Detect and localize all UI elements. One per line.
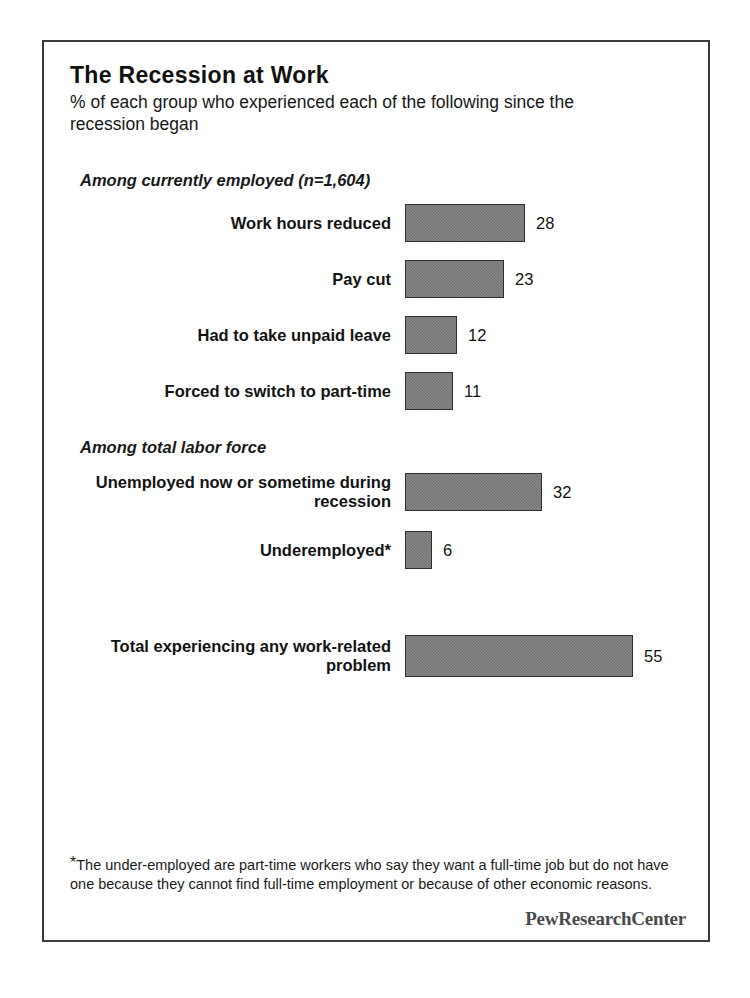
bar-wrap-pay-cut: 23 (405, 260, 686, 298)
bar-label-part-time: Forced to switch to part-time (70, 382, 405, 401)
bar-value-underemployed: 6 (443, 541, 452, 560)
bar-row-work-hours-reduced: Work hours reduced 28 (70, 204, 686, 242)
bar-wrap-part-time: 11 (405, 372, 686, 410)
bar-unpaid-leave (405, 316, 457, 354)
bar-total (405, 635, 633, 677)
bar-unemployed (405, 473, 542, 511)
section-header-total-labor-force: Among total labor force (80, 438, 686, 457)
pew-research-center-logo: PewResearchCenter (525, 908, 686, 930)
bar-pay-cut (405, 260, 504, 298)
bar-wrap-total: 55 (405, 635, 686, 677)
bar-value-pay-cut: 23 (515, 270, 533, 289)
bar-row-unemployed: Unemployed now or sometime during recess… (70, 473, 686, 511)
bar-wrap-work-hours-reduced: 28 (405, 204, 686, 242)
section-header-currently-employed: Among currently employed (n=1,604) (80, 171, 686, 190)
bar-label-pay-cut: Pay cut (70, 270, 405, 289)
bar-row-unpaid-leave: Had to take unpaid leave 12 (70, 316, 686, 354)
bar-part-time (405, 372, 453, 410)
bar-value-total: 55 (644, 647, 662, 666)
chart-subtitle: % of each group who experienced each of … (70, 92, 630, 135)
bar-label-unpaid-leave: Had to take unpaid leave (70, 326, 405, 345)
chart-rows: Among currently employed (n=1,604) Work … (70, 171, 686, 677)
footnote: *The under-employed are part-time worker… (70, 853, 686, 894)
page-title: The Recession at Work (70, 62, 686, 89)
bar-label-total: Total experiencing any work-related prob… (70, 637, 405, 675)
bar-label-work-hours-reduced: Work hours reduced (70, 214, 405, 233)
bar-work-hours-reduced (405, 204, 525, 242)
footnote-text: The under-employed are part-time workers… (70, 857, 669, 892)
bar-value-work-hours-reduced: 28 (536, 214, 554, 233)
bar-label-unemployed: Unemployed now or sometime during recess… (70, 473, 405, 511)
bar-underemployed (405, 531, 432, 569)
bar-value-part-time: 11 (464, 382, 481, 401)
bar-row-total: Total experiencing any work-related prob… (70, 635, 686, 677)
bar-value-unpaid-leave: 12 (468, 326, 486, 345)
chart-inner: The Recession at Work % of each group wh… (44, 42, 708, 940)
bar-row-underemployed: Underemployed* 6 (70, 531, 686, 569)
bar-row-pay-cut: Pay cut 23 (70, 260, 686, 298)
bar-row-part-time: Forced to switch to part-time 11 (70, 372, 686, 410)
chart-frame: The Recession at Work % of each group wh… (42, 40, 710, 942)
bar-label-underemployed: Underemployed* (70, 541, 405, 560)
bar-wrap-unpaid-leave: 12 (405, 316, 686, 354)
bar-wrap-underemployed: 6 (405, 531, 686, 569)
bar-value-unemployed: 32 (553, 483, 571, 502)
bar-wrap-unemployed: 32 (405, 473, 686, 511)
